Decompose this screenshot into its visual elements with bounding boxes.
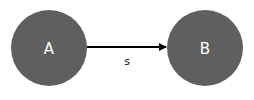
- node-b-label: B: [200, 40, 210, 58]
- edge-a-to-b: s: [87, 47, 166, 68]
- node-b: B: [167, 10, 243, 86]
- node-a-label: A: [44, 40, 55, 58]
- edge-label: s: [124, 55, 130, 68]
- state-diagram: A s B: [0, 0, 254, 100]
- node-a: A: [11, 10, 87, 86]
